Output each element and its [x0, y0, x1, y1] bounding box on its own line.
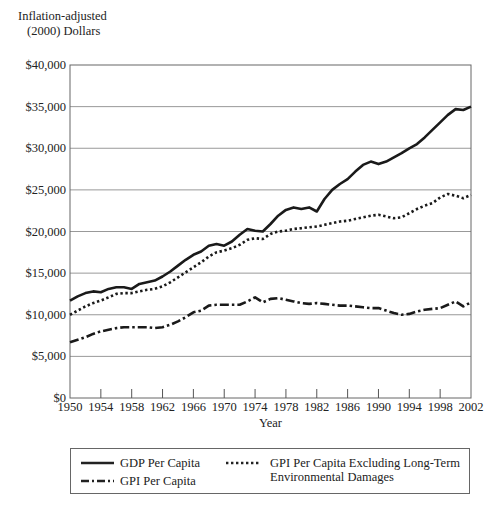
y-tick-label: $30,000 — [25, 141, 66, 155]
svg-text:Inflation-adjusted: Inflation-adjusted — [18, 9, 108, 23]
legend-label-gpi: GPI Per Capita — [120, 474, 196, 488]
x-tick-label: 1966 — [181, 400, 206, 414]
y-tick-label: $15,000 — [25, 266, 66, 280]
gridlines — [70, 107, 471, 357]
y-tick-label: $5,000 — [32, 349, 66, 363]
x-tick-label: 1982 — [304, 400, 329, 414]
legend-label-gpi-excl-line2: Environmental Damages — [270, 470, 394, 484]
y-axis-title: Inflation-adjusted (2000) Dollars — [18, 9, 108, 38]
series-line-solid — [70, 107, 471, 301]
y-tick-label: $20,000 — [25, 225, 66, 239]
x-tick-label: 1978 — [273, 400, 298, 414]
x-tick-label: 1954 — [88, 400, 114, 414]
x-tick-label: 1986 — [335, 400, 360, 414]
legend-label-gdp: GDP Per Capita — [120, 456, 200, 470]
svg-text:(2000) Dollars: (2000) Dollars — [27, 24, 100, 38]
legend-label-gpi-excl-line1: GPI Per Capita Excluding Long-Term — [270, 456, 460, 470]
y-tick-label: $25,000 — [25, 183, 66, 197]
y-axis: $0$5,000$10,000$15,000$20,000$25,000$30,… — [25, 58, 66, 405]
x-tick-label: 1962 — [150, 400, 175, 414]
x-tick-label: 1994 — [397, 400, 423, 414]
x-axis-title: Year — [259, 416, 283, 430]
x-tick-label: 1974 — [243, 400, 269, 414]
y-tick-label: $40,000 — [25, 58, 66, 72]
series-line-dotted — [70, 194, 471, 315]
x-tick-label: 1958 — [119, 400, 144, 414]
x-axis: 1950195419581962196619701974197819821986… — [58, 389, 484, 414]
x-tick-label: 1990 — [366, 400, 391, 414]
line-chart: Inflation-adjusted (2000) Dollars $0$5,0… — [0, 0, 504, 507]
x-tick-label: 1970 — [212, 400, 237, 414]
x-tick-label: 1950 — [58, 400, 83, 414]
x-tick-label: 1998 — [428, 400, 453, 414]
x-tick-label: 2002 — [459, 400, 484, 414]
y-tick-label: $10,000 — [25, 308, 66, 322]
y-tick-label: $35,000 — [25, 100, 66, 114]
legend: GDP Per Capita GPI Per Capita GPI Per Ca… — [70, 448, 470, 494]
series-line-dash-dot — [70, 297, 471, 342]
series-lines — [70, 107, 471, 343]
